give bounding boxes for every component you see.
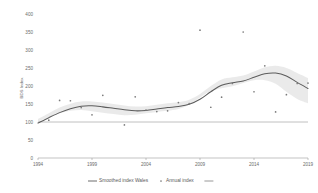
legend-dot-swatch [160,180,162,182]
legend-label: Annual index [166,178,194,183]
x-axis-ticks: 199419992004200920142019 [33,158,314,167]
data-point [221,96,223,98]
y-tick-label: 400 [25,12,33,17]
data-point [124,124,126,126]
legend-label: Smoothed index Wales [99,178,149,183]
y-tick-label: 50 [28,138,34,143]
data-point [253,91,255,93]
data-point [59,100,61,102]
data-point [188,103,190,105]
data-point [134,96,136,98]
y-axis-ticks: 050100150200250300350400 [25,12,33,161]
data-point [167,110,169,112]
data-point [275,111,277,113]
x-tick-label: 2009 [195,162,206,167]
data-point [242,31,244,33]
x-tick-label: 1999 [87,162,98,167]
data-point [102,95,104,97]
data-point [232,83,234,85]
data-point [307,82,309,84]
data-point [199,29,201,31]
y-tick-label: 150 [25,102,33,107]
confidence-band [38,66,308,122]
data-point [70,100,72,102]
y-tick-label: 350 [25,30,33,35]
data-point [296,83,298,85]
data-point [91,114,93,116]
y-tick-label: 300 [25,48,33,53]
data-point [264,65,266,67]
data-point [145,109,147,111]
data-point [80,107,82,109]
x-tick-label: 2004 [141,162,152,167]
chart-container: 199419992004200920142019 050100150200250… [0,0,318,193]
x-tick-label: 2014 [249,162,260,167]
y-tick-label: 200 [25,84,33,89]
y-tick-label: 0 [30,156,33,161]
x-tick-label: 2019 [303,162,314,167]
data-point [156,111,158,113]
data-point [48,119,50,121]
data-point [286,94,288,96]
bds-index-chart: 199419992004200920142019 050100150200250… [0,0,318,193]
chart-legend: Smoothed index WalesAnnual index [88,178,213,183]
data-point [178,102,180,104]
y-axis-title: BDS Index [19,77,24,99]
y-tick-label: 100 [25,120,33,125]
data-point [210,106,212,108]
y-tick-label: 250 [25,66,33,71]
x-tick-label: 1994 [33,162,44,167]
